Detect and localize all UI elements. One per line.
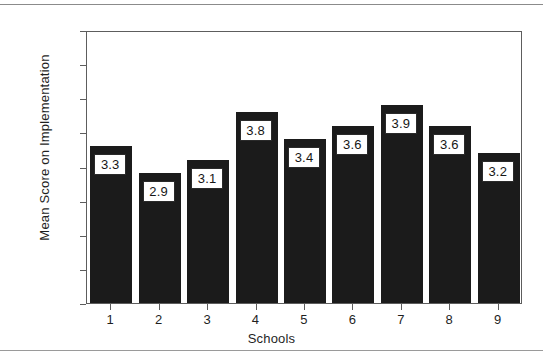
bar-value-label: 3.9 [385,113,417,134]
bar-value-label: 3.8 [240,120,272,141]
x-tick-mark [352,304,353,310]
bar-value-label: 3.6 [336,134,368,155]
bar-value-label: 3.6 [433,134,465,155]
bar-value-label: 3.4 [288,147,320,168]
bar-value-label: 3.1 [191,168,223,189]
bar-value-label: 3.3 [94,154,126,175]
x-tick-mark [256,304,257,310]
bar-value-label: 2.9 [143,181,175,202]
x-axis-title: Schools [0,331,543,346]
y-axis: 1.01.52.02.53.03.54.04.55.0 [0,0,86,363]
bar[interactable] [381,105,423,303]
x-tick-mark [110,304,111,310]
x-tick-label: 8 [434,312,464,327]
x-tick-mark [449,304,450,310]
x-tick-label: 6 [337,312,367,327]
x-tick-label: 2 [144,312,174,327]
bar-chart-figure: Mean Score on Implementation 1.01.52.02.… [0,0,543,363]
x-tick-label: 5 [289,312,319,327]
y-tick-mark [80,304,86,305]
x-tick-mark [401,304,402,310]
x-tick-mark [207,304,208,310]
bar-value-label: 3.2 [482,161,514,182]
x-tick-label: 7 [386,312,416,327]
x-tick-mark [159,304,160,310]
x-tick-mark [304,304,305,310]
x-tick-mark [498,304,499,310]
x-tick-label: 1 [95,312,125,327]
x-tick-label: 3 [192,312,222,327]
x-tick-label: 4 [241,312,271,327]
x-tick-label: 9 [483,312,513,327]
